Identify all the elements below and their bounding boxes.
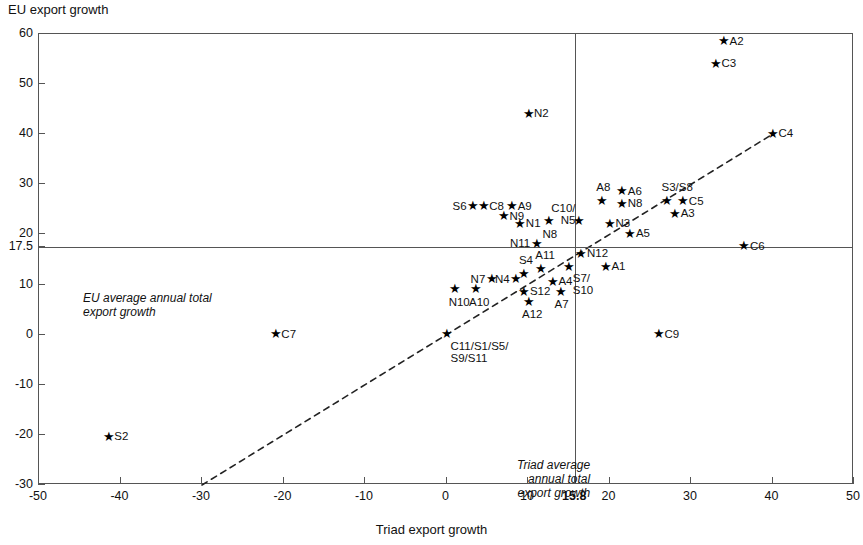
x-axis-tick-label: 30 <box>683 489 697 503</box>
x-axis-tick <box>574 477 575 484</box>
data-point-label: A2 <box>730 35 744 47</box>
data-point-label: S6 <box>453 200 467 212</box>
y-axis-tick <box>38 384 45 385</box>
x-axis-tick-label: 20 <box>602 489 616 503</box>
data-point-label: S4 <box>519 254 533 266</box>
x-axis-tick <box>201 477 202 484</box>
x-axis-tick-label: -40 <box>110 489 128 503</box>
data-point-label: N11 <box>510 237 530 249</box>
data-point-label: S2 <box>114 430 128 442</box>
data-point-label: S3/S8 <box>662 181 693 193</box>
chart-canvas: EU export growth Triad export growth EU … <box>0 0 863 545</box>
y-axis-tick <box>38 246 45 247</box>
star-icon: ★ <box>563 260 575 273</box>
data-point-label: C7 <box>281 328 296 340</box>
y-axis-tick <box>38 484 45 485</box>
y-axis-tick-label: 40 <box>0 126 33 140</box>
y-axis-tick <box>38 434 45 435</box>
x-axis-tick <box>120 477 121 484</box>
y-axis-tick-label: 30 <box>0 176 33 190</box>
y-axis-tick-label: -10 <box>0 377 33 391</box>
data-point-label: A8 <box>596 181 610 193</box>
data-point-label: N2 <box>534 107 549 119</box>
y-axis-tick <box>38 33 45 34</box>
y-axis-tick <box>38 284 45 285</box>
data-point-label: N8 <box>542 228 560 240</box>
x-axis-tick <box>446 477 447 484</box>
x-axis-tick <box>609 477 610 484</box>
y-axis-tick-label: 17.5 <box>0 239 33 253</box>
eu-average-line <box>39 247 852 248</box>
x-axis-tick-label: 10 <box>520 489 534 503</box>
star-icon: ★ <box>535 262 547 275</box>
x-axis-tick-label: 40 <box>765 489 779 503</box>
y-axis-tick <box>38 133 45 134</box>
x-axis-tick <box>38 477 39 484</box>
y-axis-tick <box>38 83 45 84</box>
trendline <box>39 34 852 483</box>
x-axis-tick <box>690 477 691 484</box>
y-axis-tick <box>38 334 45 335</box>
x-axis-title: Triad export growth <box>0 522 863 537</box>
data-point-label: A1 <box>611 260 625 272</box>
data-point-label: C6 <box>750 240 765 252</box>
data-point-label: A11 <box>535 249 555 261</box>
star-icon: ★ <box>270 327 282 340</box>
x-axis-tick-label: -30 <box>192 489 210 503</box>
data-point-label: N12 <box>587 247 608 259</box>
x-axis-tick-label: 15.8 <box>562 489 586 503</box>
data-point-label: N8 <box>628 197 643 209</box>
y-axis-tick <box>38 183 45 184</box>
x-axis-tick <box>283 477 284 484</box>
star-icon: ★ <box>718 34 730 47</box>
y-axis-tick-label: 60 <box>0 26 33 40</box>
star-icon: ★ <box>596 194 608 207</box>
star-icon: ★ <box>616 197 628 210</box>
x-axis-tick-label: -20 <box>273 489 291 503</box>
x-axis-tick <box>364 477 365 484</box>
data-point-label: A3 <box>681 207 695 219</box>
star-icon: ★ <box>467 199 479 212</box>
eu-average-annotation: EU average annual total export growth <box>83 291 212 319</box>
star-icon: ★ <box>478 199 490 212</box>
star-icon: ★ <box>449 282 461 295</box>
star-icon: ★ <box>555 285 567 298</box>
star-icon: ★ <box>514 217 526 230</box>
y-axis-tick-label: -20 <box>0 427 33 441</box>
data-point-label: C4 <box>779 127 794 139</box>
data-point-label: C10/ N5 <box>551 202 575 226</box>
star-icon: ★ <box>767 127 779 140</box>
x-axis-tick <box>772 477 773 484</box>
y-axis-tick-label: 50 <box>0 76 33 90</box>
star-icon: ★ <box>710 57 722 70</box>
star-icon: ★ <box>600 260 612 273</box>
star-icon: ★ <box>523 295 535 308</box>
data-point-label: N1 <box>526 217 541 229</box>
data-point-label: A7 <box>555 298 569 310</box>
data-point-label: S7/ S10 <box>573 272 593 296</box>
plot-area: EU average annual total export growth Tr… <box>38 33 853 484</box>
y-axis-tick <box>38 233 45 234</box>
data-point-label: C5 <box>689 195 704 207</box>
x-axis-tick-label: -10 <box>355 489 373 503</box>
y-axis-tick-label: 0 <box>0 327 33 341</box>
star-icon: ★ <box>653 327 665 340</box>
x-axis-tick <box>853 477 854 484</box>
data-point-label: N10 <box>449 296 470 308</box>
star-icon: ★ <box>470 282 482 295</box>
data-point-label: C11/S1/S5/ S9/S11 <box>451 340 509 364</box>
star-icon: ★ <box>103 430 115 443</box>
star-icon: ★ <box>441 327 453 340</box>
star-icon: ★ <box>604 217 616 230</box>
x-axis-tick-label: 50 <box>846 489 860 503</box>
data-point-label: C9 <box>664 328 679 340</box>
star-icon: ★ <box>523 107 535 120</box>
x-axis-tick-label: 0 <box>442 489 449 503</box>
data-point-label: A5 <box>636 227 650 239</box>
star-icon: ★ <box>738 239 750 252</box>
data-point-label: A6 <box>628 185 642 197</box>
star-icon: ★ <box>669 207 681 220</box>
star-icon: ★ <box>498 209 510 222</box>
data-point-label: A12 <box>522 308 542 320</box>
x-axis-tick <box>527 477 528 484</box>
